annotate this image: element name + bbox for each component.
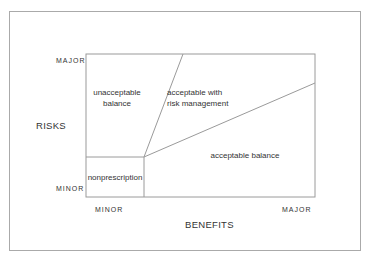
x-tick-major: MAJOR bbox=[282, 206, 312, 213]
region-acceptable: acceptable balance bbox=[205, 150, 285, 161]
y-tick-minor: MINOR bbox=[56, 185, 84, 192]
y-tick-major: MAJOR bbox=[56, 57, 86, 64]
x-axis-label: BENEFITS bbox=[185, 219, 234, 230]
region-risk-management: acceptable with risk management bbox=[167, 87, 247, 109]
region-nonprescription: nonprescription bbox=[86, 172, 144, 183]
x-tick-minor: MINOR bbox=[95, 206, 123, 213]
region-unacceptable: unacceptable balance bbox=[92, 87, 142, 109]
y-axis-label: RISKS bbox=[36, 120, 66, 131]
